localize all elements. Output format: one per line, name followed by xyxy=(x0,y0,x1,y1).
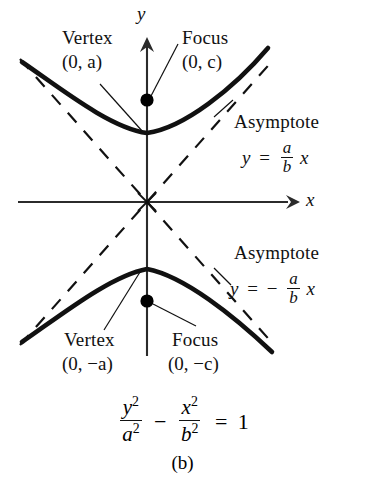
focus-bottom-point xyxy=(140,294,153,307)
axes-group xyxy=(18,37,300,356)
asymptote-lower-numerator: a xyxy=(287,270,300,288)
vertex-bottom-coordinate-text: (0, −a) xyxy=(62,353,113,374)
focus-bottom-coordinate-text: (0, −c) xyxy=(168,353,219,374)
asymptote-lower-sign: − xyxy=(267,279,278,299)
asymptote-upper-fraction: a b xyxy=(281,139,294,176)
figure-caption: (b) xyxy=(0,452,365,474)
asymptote-upper-numerator: a xyxy=(281,139,294,157)
asymptote-upper-label: Asymptote xyxy=(234,112,319,132)
main-equation-term1-numerator: y2 xyxy=(120,394,141,420)
asymptote-upper-denominator: b xyxy=(281,157,294,176)
focus-top-coordinate: (0, c) xyxy=(182,52,222,72)
asymptote-lower-label: Asymptote xyxy=(234,243,319,263)
main-equation-term2-denominator: b2 xyxy=(179,420,200,447)
vertex-bottom-label: Vertex xyxy=(64,330,115,350)
asymptote-lower-denominator: b xyxy=(287,288,300,307)
vertex-top-label: Vertex xyxy=(62,28,113,48)
hyperbola-figure: Vertex (0, a) Focus (0, c) y x Asymptote… xyxy=(0,0,365,487)
focus-top-label: Focus xyxy=(182,28,228,48)
vertex-top-coordinate-text: (0, a) xyxy=(62,51,102,72)
focus-top-coordinate-text: (0, c) xyxy=(182,51,222,72)
asymptote-lower-fraction: a b xyxy=(287,270,300,307)
leader-lines xyxy=(100,44,233,330)
asymptote-upper-relation: = xyxy=(259,148,270,168)
focus-bottom-coordinate: (0, −c) xyxy=(168,354,219,374)
leader-vertex-bottom xyxy=(104,272,140,330)
main-equation-first-term: y2 a2 xyxy=(120,394,141,447)
asymptote-upper-equation: y = a b x xyxy=(242,140,308,177)
asymptote-lower-variable: x xyxy=(306,279,314,299)
leader-focus-bottom xyxy=(153,304,196,326)
main-equation-term1-denominator: a2 xyxy=(120,420,141,447)
main-equation-term2-numerator: x2 xyxy=(179,394,200,420)
focus-bottom-label: Focus xyxy=(172,330,218,350)
vertex-top-coordinate: (0, a) xyxy=(62,52,102,72)
hyperbola-standard-equation: y2 a2 − x2 b2 = 1 xyxy=(0,395,365,448)
asymptote-upper-variable: x xyxy=(300,148,308,168)
x-axis-label: x xyxy=(306,190,314,210)
vertex-bottom-coordinate: (0, −a) xyxy=(62,354,113,374)
upper-branch-curve xyxy=(22,48,268,133)
y-axis-label: y xyxy=(137,4,145,24)
asymptote-lower-lhs: y xyxy=(230,279,238,299)
asymptote-lower-equation: y = − a b x xyxy=(230,271,315,308)
x-axis-arrowhead xyxy=(286,195,300,209)
leader-focus-top xyxy=(151,44,178,96)
main-equation-second-term: x2 b2 xyxy=(179,394,200,447)
asymptote-upper-lhs: y xyxy=(242,148,250,168)
main-equation-operator: − xyxy=(154,409,166,435)
leader-asymptote-lower xyxy=(214,268,231,285)
main-equation-relation: = xyxy=(215,409,227,435)
main-equation-right-hand-side: 1 xyxy=(238,409,249,435)
asymptote-lower-relation: = xyxy=(247,279,258,299)
